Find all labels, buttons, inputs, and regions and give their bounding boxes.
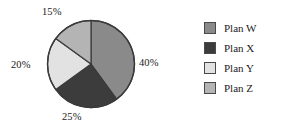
legend-swatch-plan-y [204,62,216,74]
slice-label-plan-y: 20% [11,60,31,71]
legend-label-plan-w: Plan W [224,23,257,34]
legend-swatch-plan-x [204,42,216,54]
pie-plot-area: 40% 25% 20% 15% [0,0,180,129]
legend-item-plan-x: Plan X [204,38,286,58]
slice-label-plan-x: 25% [62,112,82,123]
slice-label-plan-w: 40% [139,58,159,69]
chart-legend: Plan W Plan X Plan Y Plan Z [204,18,286,98]
legend-item-plan-w: Plan W [204,18,286,38]
legend-item-plan-z: Plan Z [204,78,286,98]
legend-label-plan-z: Plan Z [224,83,253,94]
legend-swatch-plan-z [204,82,216,94]
legend-swatch-plan-w [204,22,216,34]
pie-chart-figure: 40% 25% 20% 15% Plan W Plan X Plan Y Pla… [0,0,287,129]
legend-label-plan-y: Plan Y [224,63,254,74]
legend-label-plan-x: Plan X [224,43,254,54]
legend-item-plan-y: Plan Y [204,58,286,78]
slice-label-plan-z: 15% [42,7,62,18]
